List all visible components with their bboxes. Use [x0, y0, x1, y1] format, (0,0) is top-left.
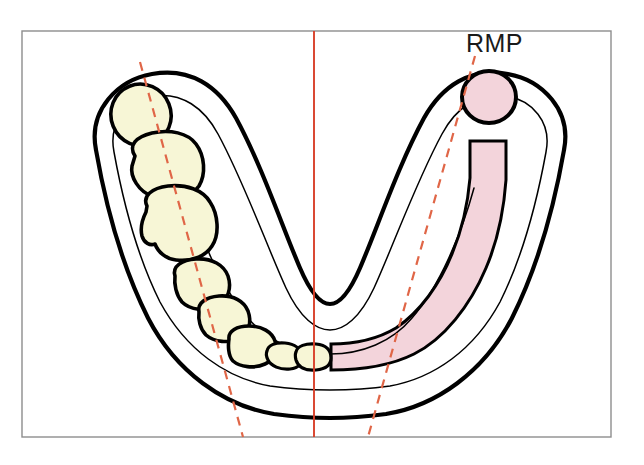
dental-arch-figure: RMP: [0, 0, 644, 465]
figure-canvas: RMP: [0, 0, 644, 465]
molar-rmp: [462, 71, 516, 123]
rmp-label: RMP: [466, 29, 523, 57]
